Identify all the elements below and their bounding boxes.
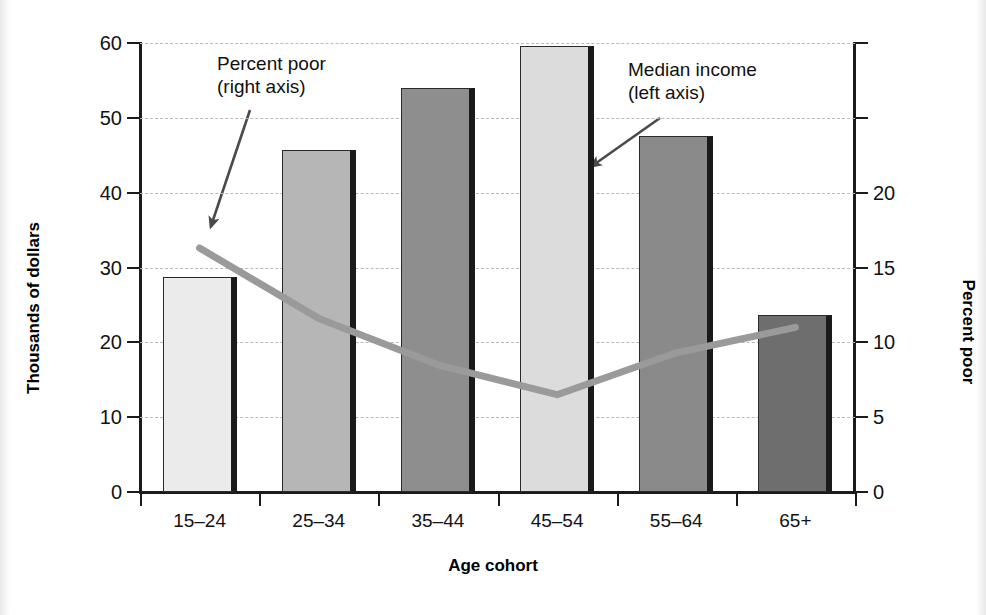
y-axis-right-tick-label: 0: [873, 481, 884, 504]
y-axis-left-tick: [127, 267, 140, 269]
y-axis-right-tick-label: 10: [873, 331, 895, 354]
y-axis-right-tick: [855, 192, 868, 194]
plot-area: 0102030405060 05101520 15–2425–3435–4445…: [140, 43, 855, 492]
x-axis-tick: [617, 492, 619, 506]
x-axis-tick-label: 45–54: [531, 510, 584, 532]
y-axis-right-tick-label: 20: [873, 181, 895, 204]
x-axis-tick-label: 35–44: [411, 510, 464, 532]
y-axis-left-tick: [127, 416, 140, 418]
x-axis-tick: [140, 492, 142, 506]
y-axis-right-tick: [855, 117, 868, 119]
y-axis-left-tick: [127, 192, 140, 194]
page-edge-left: [0, 0, 10, 615]
y-axis-left-tick-label: 40: [100, 181, 122, 204]
x-axis-tick: [498, 492, 500, 506]
y-axis-right-tick-label: 5: [873, 406, 884, 429]
y-axis-left-tick: [127, 42, 140, 44]
x-axis-tick: [855, 492, 857, 506]
line-series: [140, 43, 855, 492]
y-axis-right-tick: [855, 42, 868, 44]
y-axis-right-title: Percent poor: [958, 280, 978, 385]
y-axis-left-tick-label: 10: [100, 406, 122, 429]
y-axis-left-tick-label: 30: [100, 256, 122, 279]
x-axis-tick: [378, 492, 380, 506]
x-axis-tick-label: 15–24: [173, 510, 226, 532]
y-axis-left-tick-label: 60: [100, 32, 122, 55]
y-axis-left-tick: [127, 117, 140, 119]
y-axis-left-tick-label: 0: [111, 481, 122, 504]
y-axis-left-title: Thousands of dollars: [24, 222, 44, 394]
y-axis-left-tick-label: 50: [100, 106, 122, 129]
x-axis-tick-label: 65+: [779, 510, 811, 532]
x-axis-tick: [259, 492, 261, 506]
x-axis-tick-label: 55–64: [650, 510, 703, 532]
x-axis-tick-label: 25–34: [292, 510, 345, 532]
y-axis-right-tick: [855, 267, 868, 269]
x-axis-tick: [736, 492, 738, 506]
y-axis-right-tick: [855, 341, 868, 343]
x-axis-title: Age cohort: [448, 556, 538, 576]
y-axis-left-tick: [127, 491, 140, 493]
y-axis-right-tick-label: 15: [873, 256, 895, 279]
y-axis-left-tick: [127, 341, 140, 343]
y-axis-right-tick: [855, 416, 868, 418]
y-axis-left-tick-label: 20: [100, 331, 122, 354]
chart-figure: Thousands of dollars Percent poor Age co…: [0, 0, 986, 615]
